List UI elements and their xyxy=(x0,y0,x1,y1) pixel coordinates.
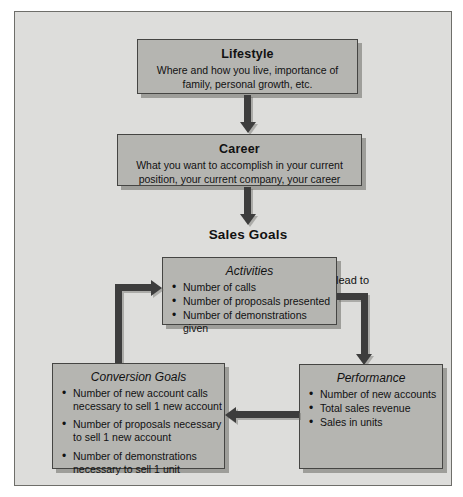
diagram-page: Lifestyle Where and how you live, import… xyxy=(0,0,463,497)
bullet-item: Number of demonstrations given xyxy=(172,309,334,335)
performance-box: Performance Number of new accounts Total… xyxy=(299,364,443,469)
arrow-bar-vertical xyxy=(115,284,122,363)
bullet-item: Total sales revenue xyxy=(309,402,440,415)
career-body: What you want to accomplish in your curr… xyxy=(118,156,361,186)
arrow-performance-to-conversion xyxy=(225,407,299,423)
arrow-bar-vertical xyxy=(244,95,251,122)
lead-to-label: lead to xyxy=(336,274,369,286)
bullet-item: Number of new accounts xyxy=(309,388,440,401)
arrow-bar-horizontal xyxy=(236,411,299,418)
activities-title: Activities xyxy=(163,258,336,278)
arrowhead-left-icon xyxy=(225,407,236,423)
bullet-item: Number of calls xyxy=(172,281,334,294)
lifestyle-title: Lifestyle xyxy=(138,40,357,61)
activities-box: Activities Number of calls Number of pro… xyxy=(162,257,337,325)
arrowhead-down-icon xyxy=(240,122,256,133)
arrowhead-down-icon xyxy=(240,214,256,225)
lifestyle-body: Where and how you live, importance of fa… xyxy=(138,61,357,91)
diagram-frame: Lifestyle Where and how you live, import… xyxy=(14,11,452,486)
arrow-lifestyle-to-career xyxy=(240,95,256,133)
arrowhead-right-icon xyxy=(151,280,162,296)
arrow-bar-vertical xyxy=(361,293,368,354)
lifestyle-box: Lifestyle Where and how you live, import… xyxy=(137,39,358,94)
bullet-item: Number of proposals necessary to sell 1 … xyxy=(62,418,222,444)
activities-bullet-list: Number of calls Number of proposals pres… xyxy=(163,278,336,336)
arrow-conversion-to-activities xyxy=(115,280,162,363)
bullet-item: Number of new account calls necessary to… xyxy=(62,387,222,413)
conversion-goals-bullet-list: Number of new account calls necessary to… xyxy=(53,384,224,476)
career-box: Career What you want to accomplish in yo… xyxy=(117,134,362,186)
arrow-career-to-sales-goals xyxy=(240,187,256,225)
sales-goals-heading: Sales Goals xyxy=(187,227,309,242)
bullet-item: Number of demonstrations necessary to se… xyxy=(62,450,222,476)
performance-title: Performance xyxy=(300,365,442,385)
performance-bullet-list: Number of new accounts Total sales reven… xyxy=(300,385,442,429)
career-title: Career xyxy=(118,135,361,156)
arrow-activities-to-performance xyxy=(337,293,373,365)
arrow-bar-vertical xyxy=(244,187,251,214)
conversion-goals-title: Conversion Goals xyxy=(53,364,224,384)
conversion-goals-box: Conversion Goals Number of new account c… xyxy=(52,363,225,469)
bullet-item: Sales in units xyxy=(309,416,440,429)
bullet-item: Number of proposals presented xyxy=(172,295,334,308)
